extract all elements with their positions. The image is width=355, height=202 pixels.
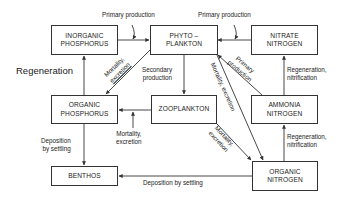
node-phytoplankton: PHYTO –PLANKTON — [150, 25, 218, 55]
node-label: NITROGEN — [267, 176, 303, 185]
label-regen-ammonia: Regeneration, nitrification — [287, 133, 327, 148]
node-label: PHOSPHORUS — [61, 110, 109, 119]
node-label: PLANKTON — [166, 40, 202, 49]
node-label: PHOSPHORUS — [61, 40, 109, 49]
node-label: PHYTO – — [166, 32, 202, 41]
label-primary-production-n: Primary production — [198, 11, 251, 19]
node-inorganic-phosphorus: INORGANICPHOSPHORUS — [51, 25, 118, 55]
node-label: ORGANIC — [267, 168, 303, 177]
label-line: Deposition — [41, 137, 71, 145]
node-benthos: BENTHOS — [51, 166, 118, 186]
node-label: ORGANIC — [61, 101, 109, 110]
node-organic-phosphorus: ORGANICPHOSPHORUS — [51, 95, 118, 124]
label-secondary-production: Secondary production — [142, 66, 172, 81]
label-line: Regeneration, — [287, 133, 327, 141]
label-primary-production-p: Primary production — [102, 11, 155, 19]
label-line: Secondary — [142, 66, 172, 74]
label-line: Mortality, — [116, 130, 142, 138]
label-regen-nitrate: Regeneration, nitrification — [287, 66, 327, 81]
node-label: INORGANIC — [61, 32, 109, 41]
node-organic-nitrogen: ORGANICNITROGEN — [252, 161, 318, 191]
node-label: NITROGEN — [267, 40, 303, 49]
label-line: by settling — [41, 145, 71, 153]
label-line: nitrification — [287, 74, 327, 82]
label-line: Regeneration, — [287, 66, 327, 74]
label-zoo-to-orgp: Mortality, excretion — [116, 130, 142, 145]
node-zooplankton: ZOOPLANKTON — [151, 95, 217, 124]
label-line: nitrification — [287, 141, 327, 149]
label-line: production — [142, 74, 172, 82]
label-line: excretion — [116, 138, 142, 146]
node-label: NITRATE — [267, 32, 303, 41]
arrow-primary-production-p-callout — [132, 25, 134, 39]
label-deposition-p: Deposition by settling — [41, 137, 71, 152]
label-regeneration: Regeneration — [16, 65, 73, 76]
node-label: NITROGEN — [267, 110, 303, 119]
node-ammonia-nitrogen: AMMONIANITROGEN — [251, 95, 318, 124]
label-deposition-n: Deposition by settling — [143, 179, 203, 187]
node-label: BENTHOS — [68, 172, 101, 181]
node-label: ZOOPLANKTON — [159, 105, 210, 114]
node-label: AMMONIA — [267, 101, 303, 110]
arrow-primary-production-n-callout — [234, 25, 236, 39]
node-nitrate-nitrogen: NITRATENITROGEN — [251, 25, 318, 55]
